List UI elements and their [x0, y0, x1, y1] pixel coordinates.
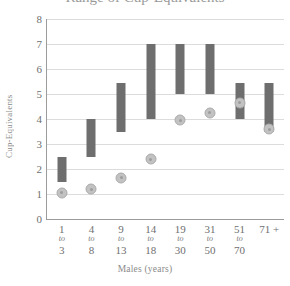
x-tick-label: 4to8	[88, 223, 94, 257]
x-tick-lower: 71 +	[259, 223, 279, 235]
x-tick-connector: to	[88, 235, 94, 244]
intake-marker-dot	[116, 172, 127, 183]
x-tick-upper: 13	[116, 244, 127, 256]
x-tick-upper: 18	[145, 244, 156, 256]
y-axis-title: Cup-Equivalents	[2, 66, 16, 186]
x-tick-label: 51to70	[234, 223, 245, 257]
x-tick-upper: 8	[88, 244, 94, 256]
plot-area: 0123456781to34to89to1314to1819to3031to50…	[47, 19, 284, 219]
range-bar	[176, 44, 185, 94]
y-tick-label-0: 0	[37, 214, 43, 225]
y-tick-label-7: 7	[37, 39, 43, 50]
x-tick-upper: 30	[175, 244, 186, 256]
y-tick-label-6: 6	[37, 64, 43, 75]
x-tick-label: 31to50	[204, 223, 215, 257]
y-tick-label-2: 2	[37, 164, 43, 175]
x-tick-connector: to	[204, 235, 215, 244]
x-tick-connector: to	[234, 235, 245, 244]
gridline-1	[47, 194, 284, 195]
gridline-0	[47, 219, 284, 220]
y-tick-label-8: 8	[37, 14, 43, 25]
gridline-3	[47, 144, 284, 145]
intake-marker-dot	[86, 184, 97, 195]
x-tick-upper: 50	[204, 244, 215, 256]
gridline-2	[47, 169, 284, 170]
x-tick-label: 1to3	[59, 223, 65, 257]
intake-marker-dot	[234, 97, 245, 108]
range-bar	[205, 44, 214, 94]
intake-marker-dot	[204, 107, 215, 118]
intake-marker-dot	[175, 115, 186, 126]
x-tick-label: 14to18	[145, 223, 156, 257]
range-bar	[57, 157, 66, 182]
x-tick-connector: to	[59, 235, 65, 244]
x-tick-label: 19to30	[175, 223, 186, 257]
gridline-6	[47, 69, 284, 70]
range-bar	[87, 119, 96, 157]
intake-marker-dot	[145, 154, 156, 165]
range-bar	[146, 44, 155, 119]
x-tick-connector: to	[116, 235, 127, 244]
y-tick-label-5: 5	[37, 89, 43, 100]
gridline-8	[47, 19, 284, 20]
gridline-4	[47, 119, 284, 120]
y-tick-label-1: 1	[37, 189, 43, 200]
x-tick-label: 9to13	[116, 223, 127, 257]
x-tick-label: 71 +	[259, 223, 279, 235]
x-tick-connector: to	[175, 235, 186, 244]
intake-marker-dot	[56, 187, 67, 198]
x-tick-upper: 3	[59, 244, 65, 256]
gridline-7	[47, 44, 284, 45]
chart-container: Range of Cup-Equivalents Cup-Equivalents…	[0, 0, 290, 286]
x-tick-upper: 70	[234, 244, 245, 256]
y-tick-label-4: 4	[37, 114, 43, 125]
intake-marker-dot	[264, 124, 275, 135]
range-bar	[117, 83, 126, 132]
chart-title: Range of Cup-Equivalents	[0, 0, 290, 6]
x-tick-connector: to	[145, 235, 156, 244]
x-axis-title: Males (years)	[0, 264, 290, 274]
gridline-5	[47, 94, 284, 95]
y-tick-label-3: 3	[37, 139, 43, 150]
